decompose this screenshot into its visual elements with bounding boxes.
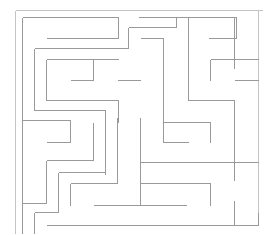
maze-inner-walls [23,18,259,235]
maze-outer-walls [16,11,263,235]
maze [0,0,276,234]
